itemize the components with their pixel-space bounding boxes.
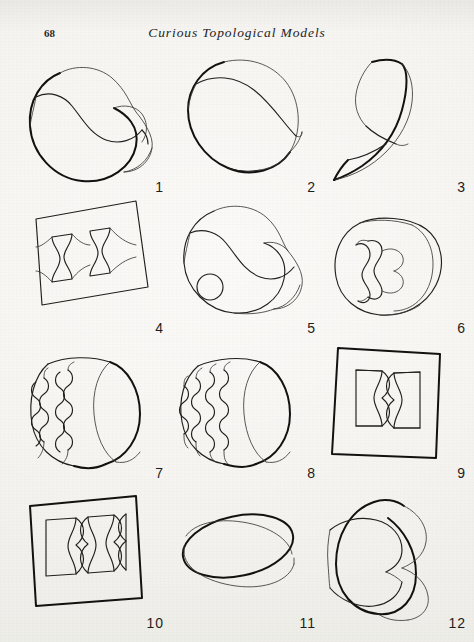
figure-9-drawing <box>316 334 474 483</box>
figure-7: 7 <box>14 334 172 483</box>
figure-5: 5 <box>166 189 324 338</box>
figure-12-drawing <box>316 484 474 633</box>
book-page: 68 Curious Topological Models 1 <box>0 0 474 642</box>
figure-2-drawing <box>166 48 324 197</box>
figure-4: 4 <box>14 189 172 338</box>
figure-11-drawing <box>166 484 324 633</box>
figure-11-label: 11 <box>299 615 316 631</box>
figure-11: 11 <box>166 484 324 633</box>
figure-5-drawing <box>166 189 324 338</box>
figure-3-drawing <box>316 48 474 197</box>
figure-9: 9 <box>316 334 474 483</box>
figure-3: 3 <box>316 48 474 197</box>
running-head-title: Curious Topological Models <box>0 25 474 41</box>
figure-8-drawing <box>166 334 324 483</box>
figure-10-label: 10 <box>146 615 164 631</box>
figure-1: 1 <box>14 48 172 197</box>
figure-6: 6 <box>316 189 474 338</box>
figure-4-drawing <box>14 189 172 338</box>
figure-2: 2 <box>166 48 324 197</box>
figure-7-label: 7 <box>155 465 164 481</box>
figure-7-drawing <box>14 334 172 483</box>
figure-10: 10 <box>14 484 172 633</box>
figure-12-label: 12 <box>448 615 466 631</box>
figure-10-drawing <box>14 484 172 633</box>
figure-6-drawing <box>316 189 474 338</box>
figure-8-label: 8 <box>307 465 316 481</box>
figure-8: 8 <box>166 334 324 483</box>
figure-9-label: 9 <box>457 465 466 481</box>
figure-1-drawing <box>14 48 172 197</box>
figure-grid: 1 2 <box>0 46 474 642</box>
page-header: 68 Curious Topological Models <box>0 0 474 48</box>
figure-12: 12 <box>316 484 474 633</box>
